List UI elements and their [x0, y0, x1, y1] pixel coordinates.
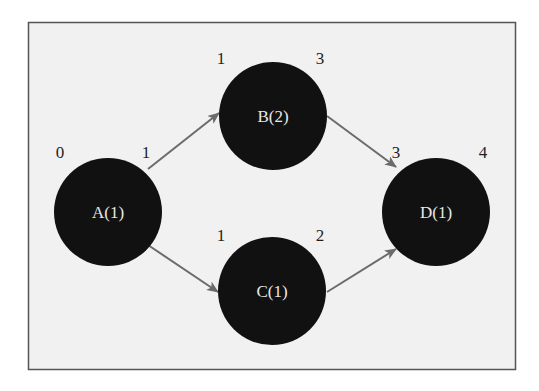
node-b-early-start: 1 [217, 49, 226, 68]
node-c-label: C(1) [256, 282, 287, 301]
node-d-label: D(1) [420, 203, 452, 222]
network-diagram: A(1) 0 1 B(2) 1 3 C(1) 1 2 D(1) 3 4 [0, 0, 539, 391]
node-b-early-finish: 3 [316, 49, 325, 68]
node-a-early-finish: 1 [142, 143, 151, 162]
node-a-label: A(1) [92, 203, 124, 222]
node-d-early-start: 3 [392, 143, 401, 162]
node-b-label: B(2) [257, 107, 288, 126]
node-d-early-finish: 4 [479, 143, 488, 162]
node-c-early-start: 1 [217, 226, 226, 245]
node-c-early-finish: 2 [316, 226, 325, 245]
node-a-early-start: 0 [56, 143, 65, 162]
